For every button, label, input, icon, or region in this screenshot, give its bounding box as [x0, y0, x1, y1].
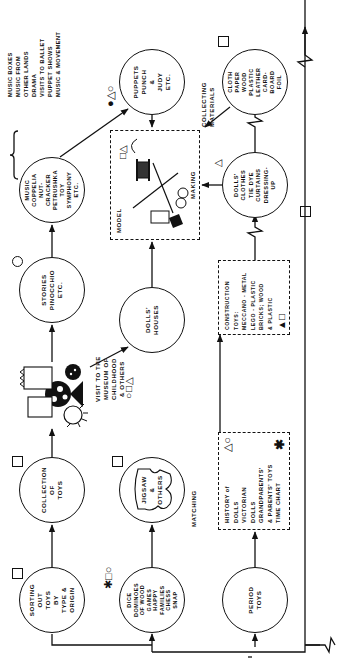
music-list-item: DRAMA [30, 32, 38, 98]
square-symbol [218, 36, 229, 47]
dolls-clothes-text: DOLLS' CLOTHES TIE DYE CURTAINS DRESSING… [233, 167, 278, 203]
period-toys-circle: PERIOD TOYS [222, 567, 288, 633]
music-list-item: MUSIC & MOVEMENT [54, 32, 62, 98]
stories-text: STORIES PINOCCHIO ETC. [40, 270, 64, 310]
puppets-text: PUPPETS PUNCH & JUDY ETC. [132, 65, 172, 98]
music-list-block: MUSIC BOXES MUSIC FROM OTHER LANDS DRAMA… [6, 32, 62, 98]
period-toys-text: PERIOD TOYS [247, 586, 263, 613]
history-symbols: △○ [221, 437, 234, 452]
dice-symbols: ✱□○ [102, 567, 115, 589]
matching-label: MATCHING [190, 490, 198, 527]
dolls-houses-circle: DOLLS' HOUSES [119, 287, 185, 353]
topic-web-diagram: SORTING OUT TOYS BY TYPE & ORIGIN COLLEC… [0, 0, 338, 667]
dice-text: DICE DOMINOES OF WOOD GAMES HAPPY FAMILI… [126, 583, 178, 617]
square-symbol [12, 456, 23, 467]
cloth-text: CLOTH PAPER WOOD PLASTIC LEATHER CARD- B… [227, 67, 283, 96]
jigsaw-text: JIGSAW & OTHERS [140, 475, 164, 504]
puppets-circle: PUPPETS PUNCH & JUDY ETC. [119, 49, 185, 115]
stories-circle: STORIES PINOCCHIO ETC. [19, 257, 85, 323]
tools-illustration [123, 133, 193, 233]
music-circle: MUSIC COPPELIA NUT- CRACKER PETRUSHKA TO… [19, 157, 85, 223]
construction-box: CONSTRUCTION TOYS: MECCANO - METAL LEGO … [218, 260, 290, 335]
dolls-clothes-circle: DOLLS' CLOTHES TIE DYE CURTAINS DRESSING… [222, 152, 288, 218]
music-list-item: MUSIC BOXES [6, 32, 14, 98]
circle-symbol [12, 256, 23, 267]
collection-circle: COLLECTION OF TOYS [19, 457, 85, 523]
sorting-circle: SORTING OUT TOYS BY TYPE & ORIGIN [19, 567, 85, 633]
construction-text: CONSTRUCTION TOYS: MECCANO - METAL LEGO … [223, 272, 274, 330]
history-box: HISTORY of DOLLS VICTORIAN DOLLS GRANDPA… [218, 432, 290, 530]
music-list-item: OTHER LANDS [22, 32, 30, 98]
visit-label: VISIT TO THE MUSEUM OF CHILDHOOD & OTHER… [94, 339, 126, 419]
collection-text: COLLECTION OF TOYS [40, 467, 64, 513]
model-making-box: MODEL MAKING □△ [110, 130, 200, 240]
sorting-text: SORTING OUT TOYS BY TYPE & ORIGIN [28, 584, 76, 616]
square-symbol [112, 456, 123, 467]
square-symbol [12, 568, 23, 579]
puppets-symbols: ●△○ [104, 86, 117, 107]
music-list-item: MUSIC FROM [14, 32, 22, 98]
collecting-materials-label: COLLECTING MATERIALS [200, 82, 216, 127]
music-list-item: VISITS TO BALLET [38, 32, 46, 98]
music-list-item: PUPPET SHOWS [46, 32, 54, 98]
dolls-illustration [8, 361, 90, 427]
jigsaw-circle: JIGSAW & OTHERS [119, 457, 185, 523]
dice-circle: DICE DOMINOES OF WOOD GAMES HAPPY FAMILI… [119, 567, 185, 633]
visit-symbols: ○□△ [123, 376, 134, 399]
square-symbol [300, 206, 311, 217]
asterisk-symbol: ✱ [272, 439, 287, 450]
construction-symbols: ▲□ [276, 314, 287, 330]
cloth-circle: CLOTH PAPER WOOD PLASTIC LEATHER CARD- B… [222, 49, 288, 115]
history-text: HISTORY of DOLLS VICTORIAN DOLLS GRANDPA… [223, 464, 283, 523]
model-label: MODEL [115, 208, 123, 233]
triangle-symbol: △ [212, 159, 223, 167]
dolls-houses-text: DOLLS' HOUSES [144, 305, 160, 335]
music-text: MUSIC COPPELIA NUT- CRACKER PETRUSHKA TO… [24, 170, 80, 210]
